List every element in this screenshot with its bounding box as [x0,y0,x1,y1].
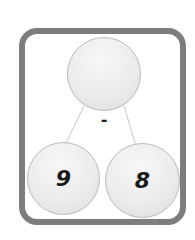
part-circle-right[interactable]: 8 [105,143,180,218]
operator-minus: - [98,112,110,128]
connector-left [65,106,84,145]
part-circle-left[interactable]: 9 [27,142,100,215]
part-value-left: 9 [56,166,71,191]
part-value-right: 8 [135,168,150,193]
connector-right [124,106,136,146]
whole-circle[interactable] [67,37,141,111]
